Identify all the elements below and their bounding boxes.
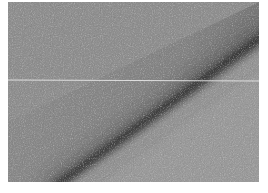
textured-surface-image — [8, 2, 259, 182]
photograph — [8, 2, 259, 182]
